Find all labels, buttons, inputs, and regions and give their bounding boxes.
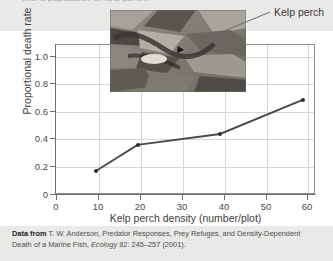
x-axis-line: [55, 194, 316, 195]
y-tick-label-0: 0: [43, 189, 48, 200]
x-tick-10: [98, 195, 99, 200]
y-tick-label-0.4: 0.4: [35, 133, 48, 144]
citation-locator: 82: 245–257 (2001).: [117, 240, 186, 249]
citation-journal: Ecology: [91, 240, 117, 249]
x-tick-label-20: 20: [135, 201, 146, 212]
y-tick-label-1.0: 1.0: [35, 51, 48, 62]
data-point-marker: [218, 132, 222, 136]
x-axis-title: Kelp perch density (number/plot): [55, 212, 316, 224]
x-tick-label-40: 40: [219, 201, 230, 212]
x-tick-40: [224, 195, 225, 200]
x-tick-label-0: 0: [53, 201, 58, 212]
x-tick-20: [140, 195, 141, 200]
y-axis-title: Proportional death rate: [21, 0, 33, 136]
citation-lead: Data from: [12, 229, 47, 238]
x-tick-label-50: 50: [261, 201, 272, 212]
data-point-marker: [136, 143, 140, 147]
x-tick-50: [266, 195, 267, 200]
y-tick-label-0.2: 0.2: [35, 161, 48, 172]
y-tick-0: [50, 194, 55, 195]
x-tick-label-10: 10: [93, 201, 104, 212]
x-tick-label-30: 30: [177, 201, 188, 212]
x-tick-30: [182, 195, 183, 200]
x-tick-0: [56, 195, 57, 200]
citation-block: Data from T. W. Anderson, Predator Respo…: [12, 229, 312, 250]
clipped-caption-text: ...of a population of kelp perch.: [22, 0, 148, 2]
y-tick-label-0.8: 0.8: [35, 78, 48, 89]
callout-label-kelp-perch: Kelp perch: [274, 6, 324, 18]
x-tick-label-60: 60: [302, 201, 313, 212]
data-point-marker: [301, 98, 305, 102]
figure-root: ...of a population of kelp perch. Propor…: [0, 0, 333, 261]
y-tick-label-0.6: 0.6: [35, 106, 48, 117]
x-tick-60: [307, 195, 308, 200]
data-point-marker: [94, 169, 98, 173]
